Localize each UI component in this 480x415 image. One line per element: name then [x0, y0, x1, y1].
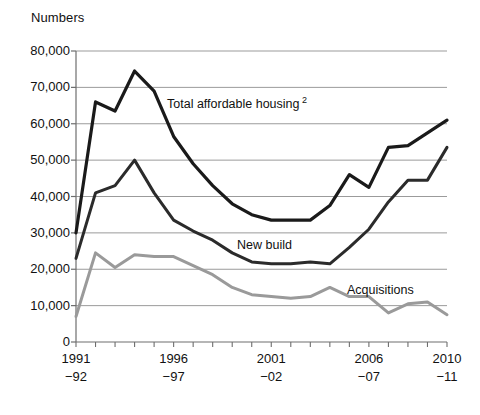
y-tick-label: 70,000	[8, 79, 70, 94]
y-tick-label: 80,000	[8, 43, 70, 58]
y-tick-label: 50,000	[8, 152, 70, 167]
x-tick-label-year-end: −07	[339, 369, 399, 384]
y-axis-title: Numbers	[31, 10, 84, 25]
affordable-housing-line-chart: Numbers 010,00020,00030,00040,00050,0006…	[0, 0, 480, 415]
series-label-new-build: New build	[237, 238, 292, 252]
x-tick-label-year: 2001	[241, 351, 301, 366]
series-label-total-affordable-housing: Total affordable housing 2	[167, 95, 307, 111]
x-tick-label-year-end: −97	[144, 369, 204, 384]
y-tick-label: 40,000	[8, 189, 70, 204]
x-tick-label-year-end: −11	[417, 369, 477, 384]
y-tick-label: 10,000	[8, 298, 70, 313]
y-tick-label: 0	[8, 334, 70, 349]
x-tick-label-year: 2010	[417, 351, 477, 366]
y-tick-label: 20,000	[8, 261, 70, 276]
x-tick-label-year: 2006	[339, 351, 399, 366]
series-label-acquisitions: Acquisitions	[347, 283, 414, 297]
x-tick-label-year: 1996	[144, 351, 204, 366]
y-tick-label: 60,000	[8, 116, 70, 131]
x-tick-label-year-end: −02	[241, 369, 301, 384]
x-tick-label-year-end: −92	[46, 369, 106, 384]
y-tick-label: 30,000	[8, 225, 70, 240]
x-tick-label-year: 1991	[46, 351, 106, 366]
